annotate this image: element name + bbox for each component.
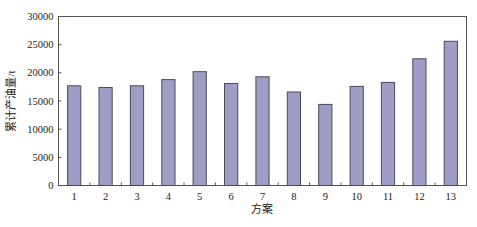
bar-12: [413, 59, 426, 186]
x-tick-label: 10: [351, 191, 362, 202]
y-axis-title: 累计产油量/t: [4, 70, 17, 131]
bar-11: [381, 82, 394, 185]
x-tick-label: 11: [383, 191, 393, 202]
x-tick-label: 5: [197, 191, 202, 202]
x-tick-label: 3: [134, 191, 139, 202]
y-tick-label: 30000: [27, 11, 53, 22]
bar-13: [444, 41, 457, 185]
y-tick-label: 0: [48, 180, 53, 191]
bar-7: [256, 77, 269, 186]
x-tick-label: 13: [446, 191, 457, 202]
bar-9: [319, 104, 332, 185]
y-tick-label: 15000: [27, 96, 53, 107]
x-tick-label: 6: [228, 191, 233, 202]
x-tick-label: 4: [166, 191, 172, 202]
bar-6: [225, 84, 238, 186]
x-tick-label: 1: [72, 191, 77, 202]
x-tick-label: 12: [414, 191, 425, 202]
x-tick-label: 7: [260, 191, 265, 202]
bar-1: [68, 86, 81, 186]
y-tick-label: 10000: [27, 124, 53, 135]
bar-5: [193, 72, 206, 186]
bar-8: [287, 92, 300, 186]
bar-10: [350, 86, 363, 185]
bar-4: [162, 80, 175, 186]
bar-3: [130, 86, 143, 186]
x-axis-title: 方案: [251, 202, 273, 215]
y-tick-label: 25000: [27, 39, 53, 50]
y-tick-label: 5000: [33, 152, 54, 163]
y-axis: 050001000015000200002500030000: [27, 11, 61, 191]
x-tick-label: 8: [291, 191, 296, 202]
bar-2: [99, 88, 112, 186]
x-tick-label: 2: [103, 191, 108, 202]
y-tick-label: 20000: [27, 67, 53, 78]
x-tick-label: 9: [323, 191, 328, 202]
bar-chart: 050001000015000200002500030000 123456789…: [0, 0, 477, 227]
